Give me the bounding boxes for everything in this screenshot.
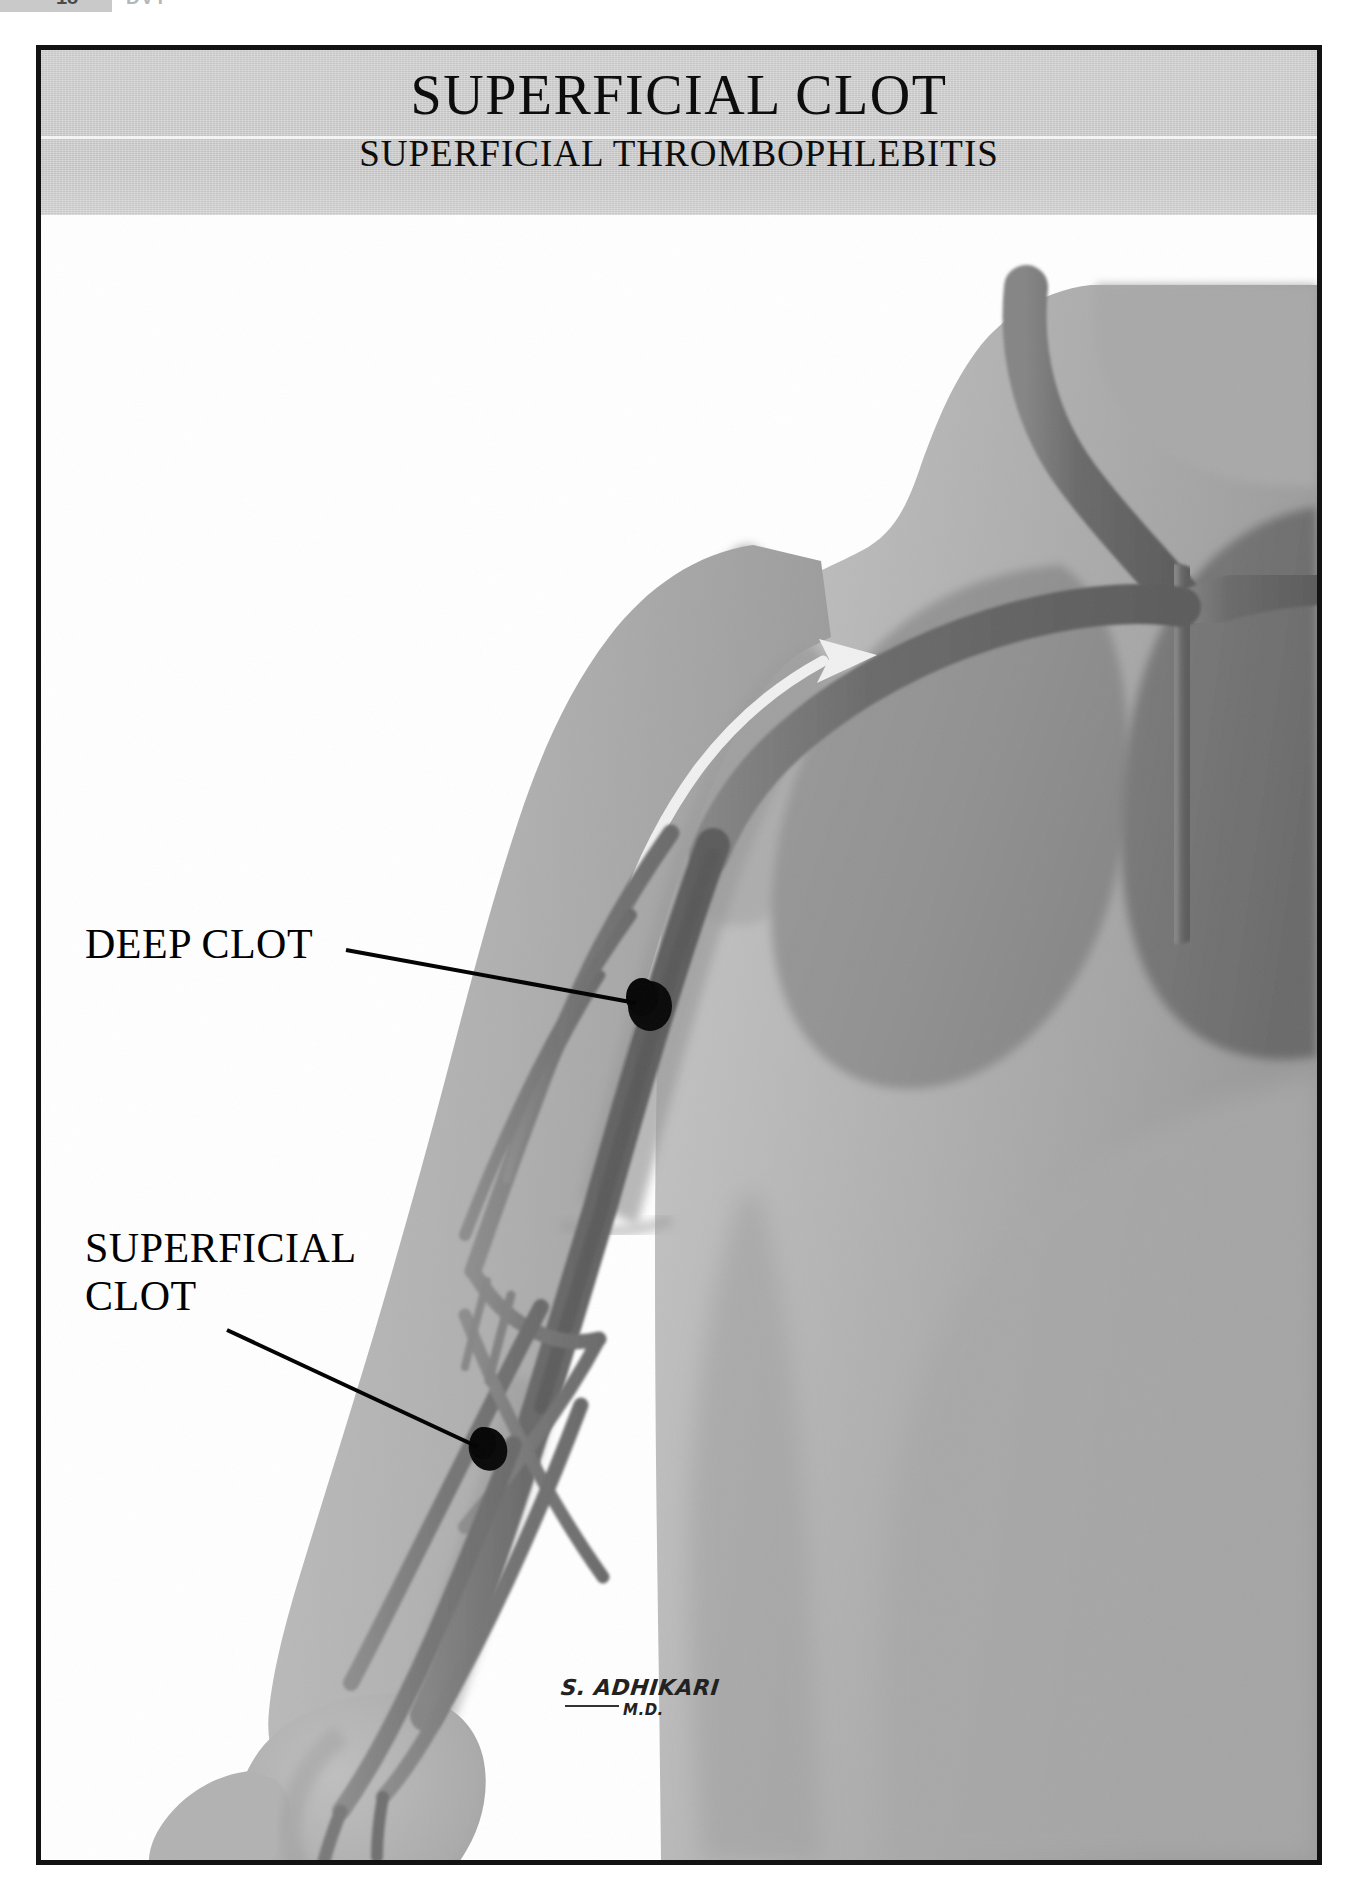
- callout-superficial-clot: SUPERFICIALCLOT: [85, 1225, 357, 1321]
- anatomy-drawing: [41, 215, 1317, 1860]
- artist-signature: S. ADHIKARI M.D.: [561, 1675, 719, 1719]
- title-banner: SUPERFICIAL CLOT SUPERFICIAL THROMBOPHLE…: [41, 50, 1317, 215]
- page-running-header: 18 DVT: [0, 0, 1366, 14]
- section-title: DVT: [126, 0, 167, 9]
- callout-deep-clot: DEEP CLOT: [85, 921, 313, 969]
- page-number: 18: [56, 0, 78, 9]
- signature-name: S. ADHIKARI: [560, 1675, 721, 1700]
- illustration-plate: SUPERFICIAL CLOT SUPERFICIAL THROMBOPHLE…: [36, 45, 1322, 1865]
- plate-title: SUPERFICIAL CLOT: [41, 50, 1317, 123]
- anatomical-illustration: DEEP CLOT SUPERFICIALCLOT S. ADHIKARI M.…: [41, 215, 1317, 1860]
- callout-superficial-clot-line1: SUPERFICIAL: [85, 1225, 357, 1271]
- plate-subtitle: SUPERFICIAL THROMBOPHLEBITIS: [41, 123, 1317, 172]
- signature-underline: [565, 1705, 619, 1707]
- signature-credential: M.D.: [623, 1701, 719, 1719]
- callout-superficial-clot-line2: CLOT: [85, 1273, 197, 1319]
